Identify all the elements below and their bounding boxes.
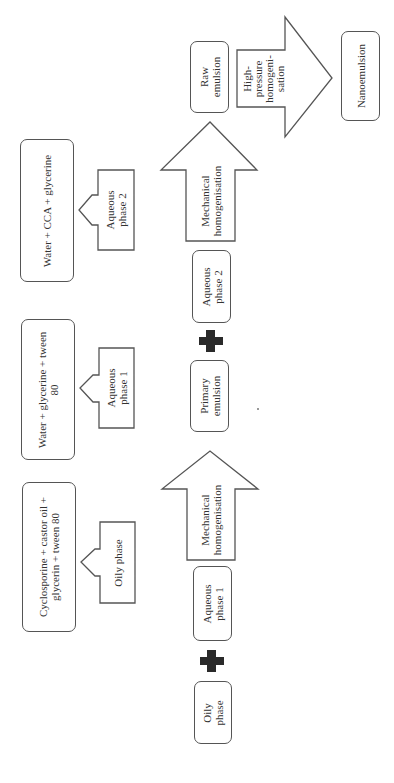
high-pressure-homogenisation-label: High- pressure homogeni- sation <box>237 50 291 107</box>
nanoemulsion-box: Nanoemulsion <box>341 31 380 121</box>
high-pressure-homogenisation-arrow-icon <box>0 0 394 783</box>
speck-artifact <box>257 408 259 410</box>
